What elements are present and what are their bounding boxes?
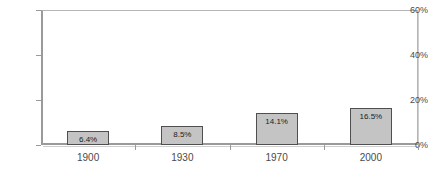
bar-value-label: 16.5% <box>351 112 391 121</box>
x-axis-category-label: 1970 <box>230 152 324 163</box>
y-axis-tick-mark <box>36 145 41 146</box>
bar-slot: 16.5% <box>324 10 418 145</box>
plot-right-shadow <box>418 12 419 146</box>
bar[interactable]: 14.1% <box>256 113 298 145</box>
plot-bottom-shadow <box>43 146 420 147</box>
x-axis-tick-mark <box>324 145 325 150</box>
bar-series: 6.4%8.5%14.1%16.5% <box>41 10 418 145</box>
bar-value-label: 14.1% <box>257 117 297 126</box>
bar-value-label: 6.4% <box>68 135 108 144</box>
bar[interactable]: 16.5% <box>350 108 392 145</box>
bar-slot: 6.4% <box>41 10 135 145</box>
x-axis-category-label: 1930 <box>135 152 229 163</box>
bar[interactable]: 8.5% <box>161 126 203 145</box>
x-axis-category-label: 2000 <box>324 152 418 163</box>
x-axis-category-label: 1900 <box>41 152 135 163</box>
bar-slot: 8.5% <box>135 10 229 145</box>
chart-title <box>0 0 428 3</box>
x-axis-tick-mark <box>230 145 231 150</box>
x-axis-tick-mark <box>418 145 419 150</box>
bar-chart: 0%20%40%60% 6.4%8.5%14.1%16.5% 190019301… <box>0 0 428 171</box>
bar[interactable]: 6.4% <box>67 131 109 145</box>
x-axis-tick-mark <box>135 145 136 150</box>
bar-value-label: 8.5% <box>162 130 202 139</box>
bar-slot: 14.1% <box>230 10 324 145</box>
